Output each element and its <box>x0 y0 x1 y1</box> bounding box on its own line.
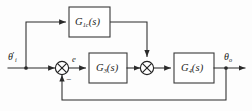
block-diagram: G1c(s) G3(s) G4(s) θ′i e θo − <box>0 0 252 111</box>
block-plant-label: G4(s) <box>181 63 203 74</box>
signal-input-label: θ′i <box>8 52 17 62</box>
block-forward-subscript: 3 <box>104 67 107 74</box>
signal-output-subscript: o <box>229 56 232 63</box>
block-forward-argument: (s) <box>107 62 118 73</box>
signal-input-subscript: i <box>15 56 17 63</box>
signal-error-label: e <box>72 55 76 64</box>
summing-junction-2 <box>140 61 153 74</box>
block-feedforward-argument: (s) <box>89 16 100 27</box>
wire-feedforward-riser <box>26 22 66 68</box>
minus-sign-glyph: − <box>66 74 71 84</box>
diagram-canvas <box>0 0 252 111</box>
block-plant-argument: (s) <box>192 62 203 73</box>
block-forward-symbol: G <box>96 62 104 73</box>
summing-junction-1-negative-sign: − <box>66 75 71 84</box>
block-forward-label: G3(s) <box>96 63 118 74</box>
block-feedforward-label: G1c(s) <box>75 17 100 28</box>
wire-feedforward-to-sum2 <box>110 22 147 57</box>
block-plant-subscript: 4 <box>189 67 192 74</box>
block-feedforward-symbol: G <box>75 16 83 27</box>
block-plant-symbol: G <box>181 62 189 73</box>
signal-output-label: θo <box>224 52 232 62</box>
block-feedforward-subscript: 1c <box>83 21 89 28</box>
signal-error-symbol: e <box>72 54 76 64</box>
summing-junction-1 <box>55 61 68 74</box>
